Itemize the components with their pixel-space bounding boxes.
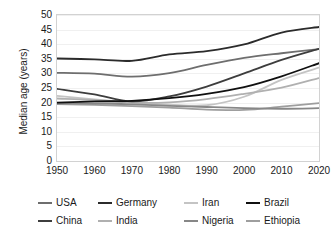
x-tick-label: 1970: [112, 165, 152, 177]
series-line-china: [57, 49, 319, 102]
y-tick-label: 45: [26, 25, 52, 35]
legend-item-nigeria[interactable]: Nigeria: [184, 212, 246, 229]
legend-item-china[interactable]: China: [38, 212, 98, 229]
plot-area: [56, 14, 320, 162]
legend-swatch-icon: [98, 202, 112, 204]
legend-label: Germany: [116, 197, 157, 208]
y-tick-label: 5: [26, 141, 52, 151]
legend-swatch-icon: [38, 202, 52, 204]
legend-swatch-icon: [38, 220, 52, 222]
legend-label: Brazil: [264, 197, 289, 208]
series-line-germany: [57, 27, 319, 61]
y-tick-label: 40: [26, 39, 52, 49]
chart-legend: USAGermanyIranBrazil ChinaIndiaNigeriaEt…: [38, 194, 328, 234]
legend-label: India: [116, 215, 138, 226]
x-tick-label: 1990: [187, 165, 227, 177]
legend-swatch-icon: [184, 220, 198, 222]
x-tick-label: 2010: [262, 165, 302, 177]
legend-swatch-icon: [246, 202, 260, 204]
legend-label: Iran: [202, 197, 219, 208]
legend-item-usa[interactable]: USA: [38, 194, 98, 211]
legend-item-iran[interactable]: Iran: [184, 194, 246, 211]
legend-row: ChinaIndiaNigeriaEthiopia: [38, 212, 328, 229]
legend-swatch-icon: [184, 202, 198, 204]
legend-row: USAGermanyIranBrazil: [38, 194, 328, 211]
x-tick-label: 2020: [299, 165, 333, 177]
legend-label: Ethiopia: [264, 215, 300, 226]
legend-swatch-icon: [98, 220, 112, 222]
series-lines: [57, 15, 319, 161]
y-axis-tick-labels: 05101520253035404550: [26, 14, 52, 162]
y-tick-label: 50: [26, 10, 52, 20]
x-tick-label: 2000: [224, 165, 264, 177]
legend-item-india[interactable]: India: [98, 212, 184, 229]
legend-label: Nigeria: [202, 215, 234, 226]
y-tick-label: 35: [26, 54, 52, 64]
legend-item-ethiopia[interactable]: Ethiopia: [246, 212, 316, 229]
legend-label: China: [56, 215, 82, 226]
x-tick-label: 1950: [37, 165, 77, 177]
x-tick-label: 1980: [149, 165, 189, 177]
legend-swatch-icon: [246, 220, 260, 222]
legend-item-brazil[interactable]: Brazil: [246, 194, 316, 211]
y-tick-label: 25: [26, 83, 52, 93]
y-tick-label: 20: [26, 98, 52, 108]
median-age-line-chart: Median age (years) 05101520253035404550 …: [0, 0, 333, 246]
x-axis-tick-labels: 19501960197019801990200020102020: [56, 165, 320, 181]
x-tick-label: 1960: [74, 165, 114, 177]
legend-label: USA: [56, 197, 77, 208]
y-tick-label: 10: [26, 127, 52, 137]
y-tick-label: 15: [26, 112, 52, 122]
legend-item-germany[interactable]: Germany: [98, 194, 184, 211]
y-tick-label: 30: [26, 68, 52, 78]
